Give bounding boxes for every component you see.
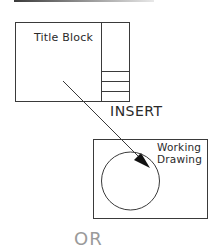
title-block-label: Title Block [34, 31, 93, 44]
working-drawing-label: Working Drawing [157, 141, 201, 165]
arrowhead-icon [134, 153, 150, 168]
drawing-circle [102, 152, 160, 210]
insert-arrow [63, 81, 150, 168]
or-label: OR [74, 228, 103, 249]
insert-label: INSERT [110, 103, 163, 119]
working-drawing-label-line1: Working [157, 141, 201, 153]
working-drawing-label-line2: Drawing [157, 153, 201, 165]
